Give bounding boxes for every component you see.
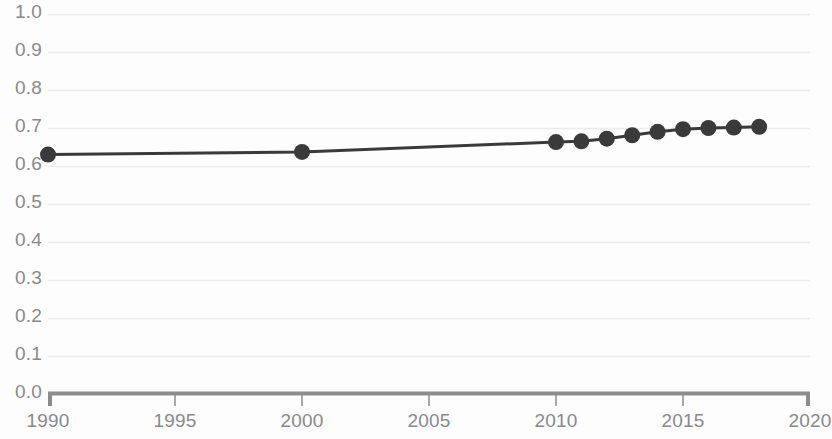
x-axis-tick-label: 1995 — [153, 410, 196, 432]
y-axis-tick-label: 0.1 — [0, 343, 42, 365]
data-point-marker[interactable] — [726, 120, 742, 136]
data-point-marker[interactable] — [599, 131, 615, 147]
x-axis-tick-label: 1990 — [26, 410, 69, 432]
line-chart: 0.00.10.20.30.40.50.60.70.80.91.0 199019… — [0, 0, 832, 439]
y-axis-tick-label: 0.6 — [0, 153, 42, 175]
x-axis-tick-label: 2020 — [788, 410, 831, 432]
gridlines-group — [48, 15, 810, 357]
data-point-marker[interactable] — [573, 133, 589, 149]
data-point-marker[interactable] — [624, 127, 640, 143]
series-markers-group — [40, 119, 767, 163]
data-point-marker[interactable] — [294, 144, 310, 160]
data-point-marker[interactable] — [650, 124, 666, 140]
x-axis-tick-label: 2010 — [534, 410, 577, 432]
y-axis-tick-label: 0.3 — [0, 267, 42, 289]
x-axis-tick-label: 2015 — [661, 410, 704, 432]
chart-canvas — [0, 0, 832, 439]
data-point-marker[interactable] — [700, 120, 716, 136]
y-axis-tick-label: 0.2 — [0, 305, 42, 327]
data-point-marker[interactable] — [751, 119, 767, 135]
data-point-marker[interactable] — [548, 134, 564, 150]
y-axis-tick-label: 0.0 — [0, 381, 42, 403]
y-axis-tick-label: 1.0 — [0, 1, 42, 23]
y-axis-tick-label: 0.8 — [0, 77, 42, 99]
y-axis-tick-label: 0.4 — [0, 229, 42, 251]
y-axis-tick-label: 0.9 — [0, 39, 42, 61]
x-axis-tick-label: 2005 — [407, 410, 450, 432]
y-axis-tick-label: 0.5 — [0, 191, 42, 213]
y-axis-tick-label: 0.7 — [0, 115, 42, 137]
data-point-marker[interactable] — [40, 147, 56, 163]
data-point-marker[interactable] — [675, 121, 691, 137]
x-axis-tick-label: 2000 — [280, 410, 323, 432]
